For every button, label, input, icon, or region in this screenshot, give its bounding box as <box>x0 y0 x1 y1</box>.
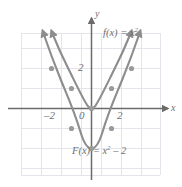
curve-F-arrow-left <box>43 31 45 37</box>
marker-F-neg2-2 <box>49 66 54 71</box>
parabola-plot <box>0 0 182 187</box>
function-label-f: f(x) = x2 <box>103 28 138 39</box>
marker-f-1-1 <box>109 86 114 91</box>
function-label-F-tail: – 2 <box>111 145 127 156</box>
graph-figure: f(x) = x2 F(x) = x2 – 2 –2 0 2 2 x y <box>0 0 182 187</box>
function-label-F: F(x) = x2 – 2 <box>72 146 126 157</box>
y-axis-name-label: y <box>95 9 99 19</box>
y-tick-label-2: 2 <box>78 62 84 73</box>
curve-f-arrow-left <box>52 31 54 37</box>
x-tick-label-zero: 0 <box>79 110 85 121</box>
curve-F-arrow-right <box>138 31 140 37</box>
x-tick-label-minus-2: –2 <box>44 110 55 121</box>
marker-F-1-neg1 <box>109 126 114 131</box>
marker-f-0-0 <box>89 106 94 111</box>
marker-f-neg1-1 <box>69 86 74 91</box>
function-label-f-text: f(x) = x <box>103 27 135 38</box>
function-label-F-lead: F(x) = x <box>72 145 107 156</box>
function-label-f-exponent: 2 <box>135 26 139 34</box>
marker-F-2-2 <box>129 66 134 71</box>
x-tick-label-2: 2 <box>117 110 123 121</box>
marker-F-neg1-neg1 <box>69 126 74 131</box>
x-axis-name-label: x <box>171 103 175 113</box>
